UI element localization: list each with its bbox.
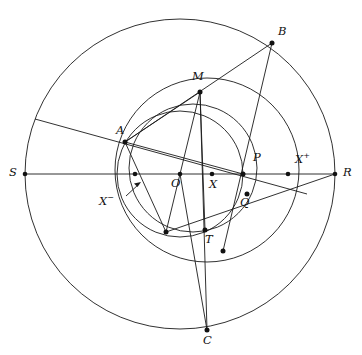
label-C: C [203, 335, 212, 347]
label-X-minus-superscript: − [107, 193, 114, 202]
label-P: P [253, 152, 261, 164]
point-M [198, 90, 203, 95]
label-X: X [209, 179, 217, 191]
direction-arrow-head [134, 182, 141, 187]
segment-M-T [200, 92, 205, 230]
segment-R-lower-left [166, 174, 335, 232]
point-P [241, 172, 246, 177]
point-unlabeled-lower-left [164, 230, 169, 235]
point-B [270, 41, 275, 46]
point-X-minus [133, 172, 138, 177]
label-X-minus-base: X [99, 194, 107, 208]
segment-A-M [125, 92, 200, 142]
label-T: T [205, 234, 213, 246]
inner-circle-shifted [129, 104, 257, 232]
label-A: A [116, 125, 124, 137]
point-C [205, 328, 210, 333]
label-X-plus: X+ [295, 152, 310, 165]
label-O: O [171, 178, 180, 190]
segment-A-lower-left [125, 142, 166, 232]
geometry-figure: S R O X P A B C M Q T X+ X− [0, 0, 362, 355]
point-A [123, 140, 128, 145]
segment-A-P [125, 142, 243, 174]
point-S [23, 172, 28, 177]
point-unlabeled-lower-right [221, 249, 226, 254]
label-X-plus-superscript: + [303, 151, 310, 160]
label-X-minus: X− [99, 194, 114, 207]
point-R [333, 172, 338, 177]
segment-B-lower [223, 43, 272, 251]
geometry-canvas [0, 0, 362, 355]
label-X-plus-base: X [295, 152, 303, 166]
label-B: B [278, 26, 286, 38]
point-X-plus [286, 172, 291, 177]
label-R: R [343, 167, 352, 179]
point-X [210, 172, 215, 177]
label-M: M [192, 71, 204, 83]
label-S: S [9, 167, 17, 179]
label-Q: Q [240, 197, 249, 209]
